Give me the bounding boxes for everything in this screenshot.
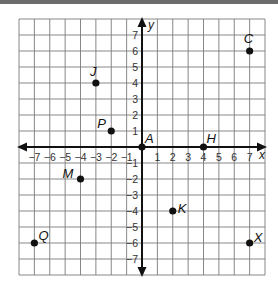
point-label-q: Q: [38, 228, 48, 243]
y-tick-label: −2: [126, 173, 138, 185]
x-tick-label: −4: [75, 151, 87, 163]
y-tick-label: −1: [126, 157, 138, 169]
point-label-j: J: [89, 64, 97, 79]
point-label-c: C: [244, 31, 254, 46]
x-tick-label: 6: [231, 151, 237, 163]
point-label-h: H: [207, 131, 217, 146]
y-axis-label: y: [147, 18, 155, 32]
x-axis-arrow-left: [17, 143, 27, 152]
x-tick-label: −7: [28, 151, 40, 163]
y-tick-label: −6: [126, 237, 138, 249]
x-tick-label: −3: [90, 151, 102, 163]
point-label-x: X: [253, 230, 264, 245]
point-label-m: M: [63, 166, 74, 181]
x-tick-label: 1: [154, 151, 160, 163]
y-tick-label: −4: [126, 205, 138, 217]
point-k: [169, 207, 176, 214]
y-tick-label: 4: [132, 77, 138, 89]
x-tick-label: −5: [59, 151, 71, 163]
x-tick-label: 7: [247, 151, 253, 163]
point-label-k: K: [178, 201, 188, 216]
point-label-p: P: [97, 116, 106, 131]
x-tick-label: 4: [201, 151, 207, 163]
point-c: [246, 47, 253, 54]
y-axis-arrow-down: [138, 267, 147, 277]
coordinate-plane: xy−7−6−5−4−3−2−11234567−7−6−5−4−3−2−1123…: [0, 0, 278, 289]
point-q: [31, 239, 38, 246]
y-tick-label: 7: [132, 29, 138, 41]
x-tick-label: 5: [216, 151, 222, 163]
y-tick-label: 5: [132, 61, 138, 73]
y-tick-label: −7: [126, 253, 138, 265]
y-tick-label: 1: [132, 125, 138, 137]
x-tick-label: 2: [170, 151, 176, 163]
point-label-a: A: [144, 131, 154, 146]
y-tick-label: 6: [132, 45, 138, 57]
x-axis-label: x: [258, 148, 266, 162]
x-tick-label: −6: [44, 151, 56, 163]
point-j: [92, 79, 99, 86]
point-m: [77, 175, 84, 182]
x-tick-label: 3: [185, 151, 191, 163]
y-tick-label: 2: [132, 109, 138, 121]
x-tick-label: −2: [105, 151, 117, 163]
y-tick-label: 3: [132, 93, 138, 105]
point-x: [246, 239, 253, 246]
y-tick-label: −3: [126, 189, 138, 201]
point-p: [108, 127, 115, 134]
y-axis-arrow-up: [138, 17, 147, 27]
y-tick-label: −5: [126, 221, 138, 233]
